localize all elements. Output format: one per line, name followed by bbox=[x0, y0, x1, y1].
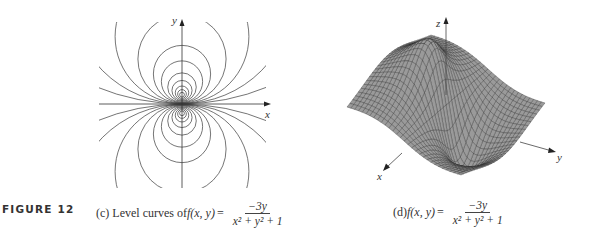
numerator: −3y bbox=[465, 199, 490, 213]
contour-plot: y x bbox=[95, 8, 280, 188]
level-curves bbox=[95, 8, 280, 188]
z-axis-label: z bbox=[435, 17, 441, 29]
x-axis-arrow-icon bbox=[383, 164, 390, 172]
figure-label: FIGURE 12 bbox=[2, 203, 75, 215]
x-axis-label: x bbox=[376, 170, 382, 182]
denominator: x² + y² + 1 bbox=[450, 213, 506, 226]
z-axis-arrow-icon bbox=[444, 17, 449, 24]
y-axis-arrow-icon bbox=[548, 148, 556, 154]
function-name: f(x, y) bbox=[407, 205, 435, 220]
surface-plot: z y x bbox=[330, 5, 589, 195]
x-axis-label: x bbox=[264, 108, 270, 120]
y-axis-label: y bbox=[171, 14, 177, 26]
y-axis-arrow-icon bbox=[180, 19, 185, 26]
x-axis bbox=[387, 153, 402, 167]
y-axis bbox=[520, 142, 552, 151]
y-axis-label: y bbox=[556, 151, 562, 163]
caption-level-curves: (c) Level curves of f(x, y) = −3y x² + y… bbox=[96, 200, 286, 227]
function-name: f(x, y) bbox=[187, 206, 215, 221]
caption-prefix: (d) bbox=[393, 205, 407, 220]
numerator: −3y bbox=[245, 200, 270, 214]
equals-sign: = bbox=[217, 206, 224, 221]
x-axis-arrow-icon bbox=[264, 102, 271, 107]
caption-prefix: (c) Level curves of bbox=[96, 206, 187, 221]
equals-sign: = bbox=[437, 205, 444, 220]
denominator: x² + y² + 1 bbox=[230, 214, 286, 227]
fraction: −3y x² + y² + 1 bbox=[450, 199, 506, 226]
caption-surface: (d) f(x, y) = −3y x² + y² + 1 bbox=[393, 199, 506, 226]
fraction: −3y x² + y² + 1 bbox=[230, 200, 286, 227]
